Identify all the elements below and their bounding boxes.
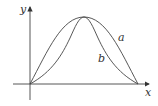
x-axis-label: x [145, 86, 152, 99]
curve-a-label: a [118, 31, 125, 44]
diagram-canvas: y x a b [0, 0, 158, 106]
curve-b [30, 17, 138, 84]
curve-a [30, 17, 138, 84]
y-axis-label: y [19, 3, 27, 16]
curve-b-label: b [98, 52, 105, 65]
